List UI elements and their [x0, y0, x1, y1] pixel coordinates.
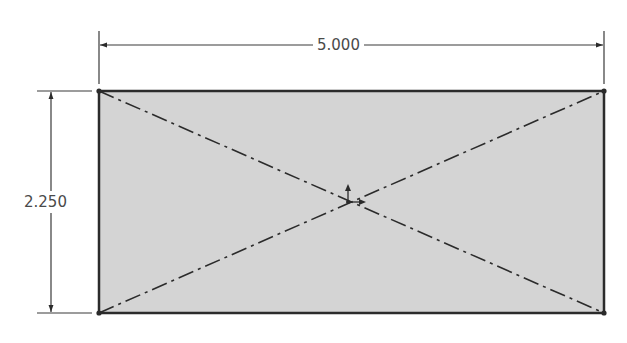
dimension-height-label[interactable]: 2.250 — [22, 191, 69, 213]
dimension-width-label[interactable]: 5.000 — [313, 36, 364, 54]
vertex-bottom-left[interactable] — [96, 310, 101, 315]
vertex-top-left[interactable] — [96, 88, 101, 93]
vertex-bottom-right[interactable] — [601, 310, 606, 315]
vertex-top-right[interactable] — [601, 88, 606, 93]
